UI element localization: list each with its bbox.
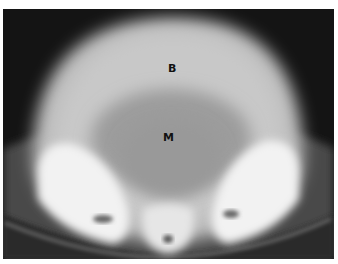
ct-scan-image: B M (3, 9, 334, 259)
label-m: M (163, 132, 174, 143)
label-b: B (168, 63, 176, 74)
